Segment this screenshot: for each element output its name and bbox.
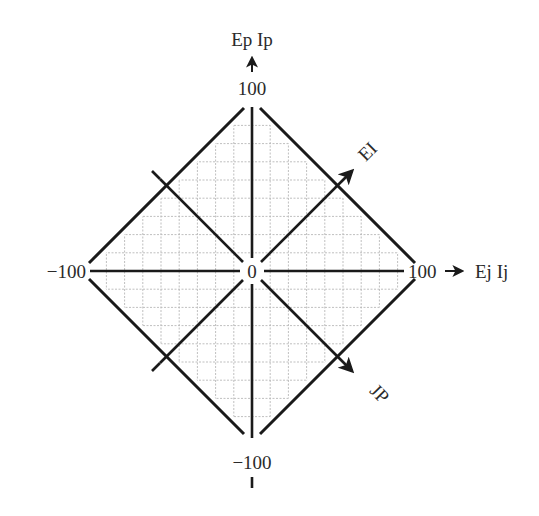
horizontal-axis-label: Ej Ij [475, 261, 508, 282]
vertical-max-label: 100 [238, 78, 267, 99]
horizontal-max-label: 100 [408, 261, 437, 282]
cross-tick-upper-left [152, 171, 160, 179]
axes [90, 107, 404, 488]
diagonal-ei-label: EI [354, 138, 382, 166]
horizontal-min-label: −100 [47, 261, 86, 282]
quadrant-diagram: Ep Ip 100 −100 −100 100 Ej Ij 0 EI JP [0, 0, 539, 516]
origin-label: 0 [247, 261, 257, 282]
diagonal-jp-label: JP [366, 380, 394, 408]
vertical-min-label: −100 [232, 452, 271, 473]
diagonal-jp-upper [160, 179, 243, 262]
vertical-axis-label: Ep Ip [231, 29, 273, 50]
diagonal-ei-lower [160, 280, 243, 363]
cross-tick-lower-left [152, 363, 160, 371]
